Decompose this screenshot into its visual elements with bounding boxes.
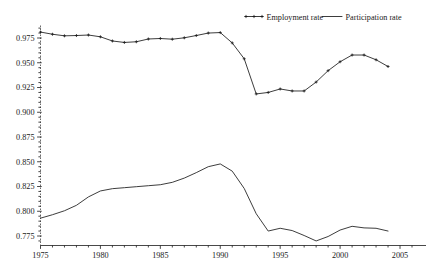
x-axis-tick-label: 1980 — [92, 251, 108, 260]
x-axis-tick-label: 2000 — [332, 251, 348, 260]
y-axis-tick-label: 0.950 — [16, 59, 34, 68]
x-axis-tick-label: 2005 — [392, 251, 408, 260]
y-axis-tick-label: 0.775 — [16, 232, 34, 241]
y-axis-tick-label: 0.800 — [16, 207, 34, 216]
x-axis-tick-label: 1990 — [212, 251, 228, 260]
legend-label: Employment rate — [267, 13, 324, 22]
line-chart-plot: 0.7750.8000.8250.8500.8750.9000.9250.950… — [0, 0, 428, 273]
chart-container: 0.7750.8000.8250.8500.8750.9000.9250.950… — [0, 0, 428, 273]
x-axis-tick-label: 1995 — [272, 251, 288, 260]
x-axis-tick-label: 1975 — [32, 251, 48, 260]
y-axis-tick-label: 0.900 — [16, 108, 34, 117]
y-axis-tick-label: 0.875 — [16, 133, 34, 142]
legend-label: Participation rate — [346, 13, 403, 22]
chart-background — [0, 0, 428, 273]
y-axis-tick-label: 0.850 — [16, 158, 34, 167]
y-axis-tick-label: 0.825 — [16, 182, 34, 191]
y-axis-tick-label: 0.975 — [16, 34, 34, 43]
y-axis-tick-label: 0.925 — [16, 83, 34, 92]
x-axis-tick-label: 1985 — [152, 251, 168, 260]
